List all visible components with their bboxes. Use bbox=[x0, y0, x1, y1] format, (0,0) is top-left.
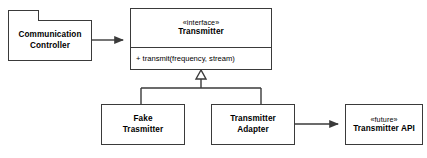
uml-diagram-canvas: Communication Controller «interface» Tra… bbox=[0, 0, 427, 158]
transmitter-interface-operation-transmit: + transmit(frequency, stream) bbox=[136, 54, 235, 63]
node-transmitter-api[interactable]: «future» Transmitter API bbox=[345, 104, 423, 145]
fake-transmitter-label-line2: Trasmitter bbox=[123, 125, 164, 136]
node-transmitter-interface[interactable]: «interface» Transmitter + transmit(frequ… bbox=[130, 8, 272, 70]
transmitter-api-stereotype: «future» bbox=[370, 115, 397, 124]
communication-controller-label-line1: Communication bbox=[18, 30, 81, 41]
fake-transmitter-label-line1: Fake bbox=[133, 114, 152, 125]
node-communication-controller[interactable]: Communication Controller bbox=[8, 20, 92, 61]
hollow-triangle-icon bbox=[196, 70, 206, 79]
transmitter-interface-stereotype: «interface» bbox=[183, 18, 220, 27]
transmitter-interface-header: «interface» Transmitter bbox=[131, 9, 271, 47]
package-tab-communication-controller bbox=[8, 10, 39, 21]
communication-controller-label-line2: Controller bbox=[30, 41, 70, 52]
node-fake-transmitter[interactable]: Fake Trasmitter bbox=[101, 104, 185, 145]
transmitter-interface-name: Transmitter bbox=[178, 27, 224, 38]
node-transmitter-adapter[interactable]: Transmitter Adapter bbox=[211, 104, 295, 145]
transmitter-adapter-label-line2: Adapter bbox=[237, 125, 269, 136]
transmitter-adapter-label-line1: Transmitter bbox=[230, 114, 276, 125]
transmitter-interface-operations: + transmit(frequency, stream) bbox=[131, 48, 271, 69]
transmitter-api-name: Transmitter API bbox=[353, 124, 415, 135]
connector-realization-tree bbox=[141, 70, 261, 104]
